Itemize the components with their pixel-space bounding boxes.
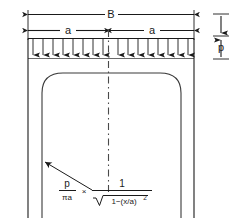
formula-numerator-left: p	[64, 178, 70, 189]
dimension-p-label: p	[218, 41, 224, 53]
dimension-a-left-label: a	[65, 24, 72, 36]
dimension-a-right-label: a	[149, 24, 156, 36]
formula-multiply-sign: ×	[82, 187, 87, 196]
formula-radicand: 1−(x/a)	[111, 197, 136, 206]
formula-denominator-left: πa	[62, 193, 73, 202]
engineering-diagram: B a a p	[0, 0, 229, 218]
formula-numerator-right: 1	[119, 178, 125, 189]
canvas-background	[0, 0, 229, 218]
dimension-B-label: B	[107, 8, 114, 20]
formula-radicand-exponent: 2	[143, 194, 147, 201]
